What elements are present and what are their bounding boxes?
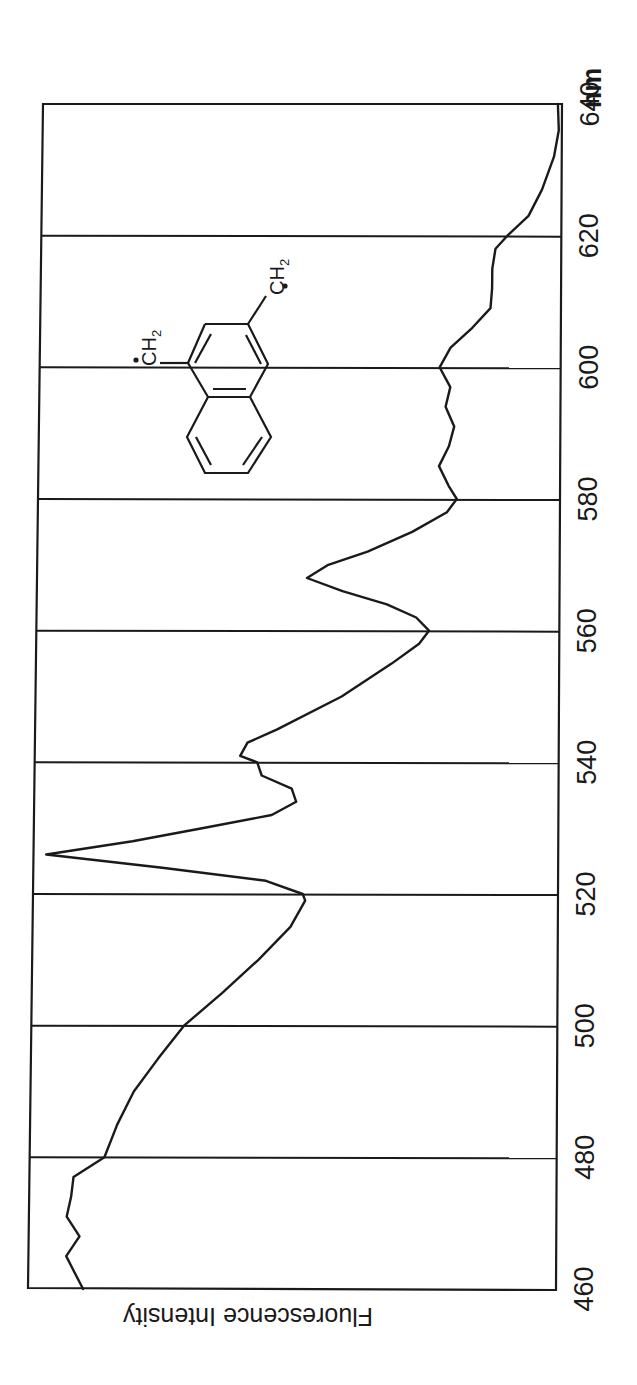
gridline-560: [36, 631, 559, 632]
double-bond: [195, 334, 211, 363]
x-tick-labels: 460480500520540560580600620640: [569, 81, 605, 1311]
x-tick-label-520: 520: [571, 871, 601, 916]
right-radical-dot: [282, 283, 287, 288]
gridline-540: [35, 762, 559, 763]
x-tick-label-460: 460: [569, 1266, 599, 1311]
x-tick-label-560: 560: [572, 608, 602, 653]
x-axis-unit-label: nm: [577, 68, 607, 109]
x-tick-label-540: 540: [572, 740, 602, 785]
x-tick-label-480: 480: [570, 1135, 600, 1180]
gridline-520: [33, 894, 558, 895]
y-axis-title: Fluorescence Intensity: [122, 1303, 373, 1331]
gridlines: [30, 236, 562, 1159]
molecule-labels: CH2 CH2: [133, 259, 292, 366]
x-tick-label-580: 580: [573, 476, 603, 521]
molecule-structure: [160, 296, 271, 473]
left-ch2-label: CH2: [138, 330, 164, 366]
gridline-500: [31, 1026, 557, 1027]
gridline-620: [41, 236, 561, 237]
right-ch2-label: CH2: [266, 259, 292, 295]
left-radical-dot: [133, 357, 138, 362]
bond-right-ch2: [248, 296, 266, 324]
gridline-600: [40, 367, 561, 368]
plot-frame: [28, 104, 562, 1290]
chart-canvas: 460480500520540560580600620640 nm Fluore…: [0, 0, 637, 1385]
lower-ring: [187, 397, 271, 473]
figure: 460480500520540560580600620640 nm Fluore…: [0, 0, 637, 1385]
gridline-580: [38, 499, 560, 500]
gridline-480: [30, 1157, 557, 1158]
fluorescence-spectrum-line: [46, 104, 559, 1289]
x-tick-label-500: 500: [570, 1003, 600, 1048]
double-bond: [246, 335, 261, 364]
x-tick-label-600: 600: [574, 345, 604, 390]
x-tick-label-620: 620: [574, 213, 604, 258]
double-bond: [243, 437, 262, 465]
upper-ring: [188, 324, 268, 397]
